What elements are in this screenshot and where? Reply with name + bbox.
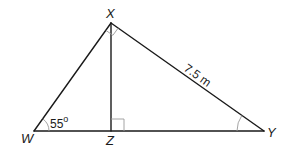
angle-arc-w bbox=[43, 119, 49, 131]
vertex-label-z: Z bbox=[105, 133, 115, 148]
side-xy bbox=[111, 23, 264, 131]
angle-w-value: 55o bbox=[50, 114, 68, 131]
right-angle-marker-z bbox=[111, 119, 124, 131]
triangle-diagram: X W Z Y 55o 7.5 m bbox=[0, 0, 288, 153]
vertex-label-x: X bbox=[105, 6, 116, 21]
angle-arc-y bbox=[237, 115, 242, 131]
vertex-label-w: W bbox=[21, 131, 35, 146]
vertex-label-y: Y bbox=[267, 125, 277, 140]
side-xy-length: 7.5 m bbox=[181, 61, 214, 90]
right-angle-marker-x bbox=[106, 28, 118, 35]
degree-symbol: o bbox=[63, 114, 68, 124]
side-wx bbox=[34, 23, 111, 131]
